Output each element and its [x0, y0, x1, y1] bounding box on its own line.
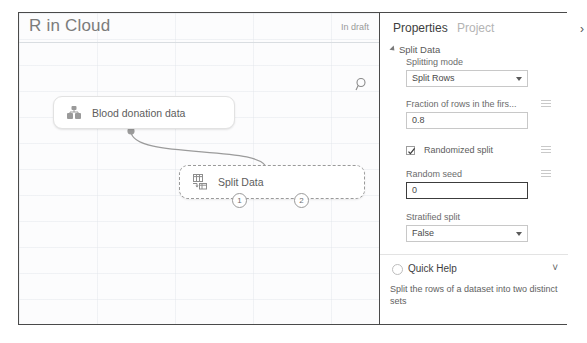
splitting-mode-select[interactable]: Split Rows — [406, 70, 528, 87]
field-label: Random seed — [406, 169, 551, 179]
node-blood-donation-data[interactable]: Blood donation data — [53, 96, 235, 129]
field-stratified-split: Stratified split False — [406, 212, 551, 242]
quick-help-title[interactable]: Quick Help — [408, 263, 457, 274]
tab-project[interactable]: Project — [457, 21, 494, 35]
canvas-area[interactable]: Blood donation data — [19, 43, 379, 324]
random-seed-input[interactable]: 0 — [406, 182, 528, 199]
output-port-1[interactable]: 1 — [232, 193, 247, 208]
node-label: Blood donation data — [92, 107, 185, 119]
node-label: Split Data — [218, 176, 264, 188]
random-seed-value: 0 — [412, 185, 417, 195]
output-port-2[interactable]: 2 — [294, 193, 309, 208]
field-label: Stratified split — [406, 212, 551, 222]
fraction-of-rows-value: 0.8 — [412, 115, 425, 125]
quick-help-section: Quick Help ˅ Split the rows of a dataset… — [380, 254, 568, 324]
panel-tabs: Properties Project › — [380, 13, 568, 47]
field-random-seed: Random seed 0 — [406, 169, 551, 199]
tab-properties[interactable]: Properties — [393, 21, 448, 35]
field-splitting-mode: Splitting mode Split Rows — [406, 57, 551, 87]
dataset-icon — [65, 104, 83, 122]
field-label: Splitting mode — [406, 57, 551, 67]
fraction-of-rows-input[interactable]: 0.8 — [406, 112, 528, 129]
parameter-range-icon[interactable] — [541, 100, 551, 109]
page-title: R in Cloud — [29, 16, 110, 36]
quick-help-text: Split the rows of a dataset into two dis… — [390, 283, 560, 307]
randomized-split-checkbox[interactable] — [406, 146, 415, 155]
field-label: Fraction of rows in the firs... — [406, 99, 551, 109]
properties-panel: Properties Project › Split Data Splittin… — [379, 13, 568, 324]
workspace-header: R in Cloud In draft — [19, 13, 379, 43]
field-randomized-split: Randomized split — [406, 145, 551, 157]
chevron-down-icon — [516, 77, 522, 81]
workspace-canvas[interactable]: R in Cloud In draft — [19, 13, 379, 324]
help-circle-icon — [392, 264, 403, 275]
parameter-range-icon[interactable] — [541, 170, 551, 179]
stratified-split-select[interactable]: False — [406, 225, 528, 242]
caret-down-icon — [389, 45, 396, 52]
node-split-data[interactable]: Split Data 1 2 — [179, 165, 365, 199]
chevron-right-icon[interactable]: › — [574, 21, 587, 37]
properties-section-header[interactable]: Split Data — [391, 44, 440, 55]
split-data-icon — [191, 173, 209, 191]
chevron-down-icon[interactable]: ˅ — [552, 262, 558, 273]
randomized-split-label: Randomized split — [424, 145, 493, 155]
application-frame: R in Cloud In draft — [18, 12, 567, 325]
section-title: Split Data — [399, 44, 440, 55]
status-badge: In draft — [341, 22, 369, 32]
splitting-mode-value: Split Rows — [412, 73, 455, 83]
field-fraction-of-rows: Fraction of rows in the firs... 0.8 — [406, 99, 551, 129]
chevron-down-icon — [516, 232, 522, 236]
parameter-range-icon[interactable] — [541, 146, 551, 155]
stratified-split-value: False — [412, 228, 434, 238]
